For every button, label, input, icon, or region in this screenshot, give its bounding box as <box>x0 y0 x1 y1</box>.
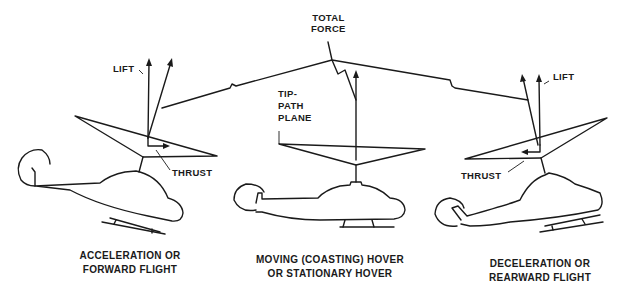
helicopter-forces-diagram: TOTAL FORCE TIP- PATH PLANE LIFT THRUST … <box>0 0 617 293</box>
caption-deceleration-line-1: DECELERATION OR <box>475 257 605 271</box>
lift-label-right: LIFT <box>553 71 574 82</box>
tip-path-line-3: PLANE <box>278 112 312 124</box>
caption-hover: MOVING (COASTING) HOVER OR STATIONARY HO… <box>240 253 420 281</box>
caption-acceleration-line-1: ACCELERATION OR <box>70 249 190 263</box>
caption-deceleration-line-2: REARWARD FLIGHT <box>475 271 605 285</box>
total-force-connector <box>162 42 528 108</box>
lift-label-left: LIFT <box>113 63 134 74</box>
caption-deceleration: DECELERATION OR REARWARD FLIGHT <box>475 257 605 285</box>
panel-deceleration <box>435 74 607 232</box>
caption-hover-line-1: MOVING (COASTING) HOVER <box>240 253 420 267</box>
tip-path-plane-left <box>75 116 217 157</box>
thrust-label-right: THRUST <box>461 170 501 181</box>
panel-acceleration <box>18 58 217 234</box>
panel-hover <box>234 70 425 227</box>
total-force-label: TOTAL FORCE <box>311 12 346 34</box>
helicopter-left <box>32 168 183 221</box>
total-force-line-2: FORCE <box>311 23 346 34</box>
total-force-line-1: TOTAL <box>311 12 346 23</box>
thrust-label-left: THRUST <box>172 167 212 178</box>
caption-acceleration-line-2: FORWARD FLIGHT <box>70 263 190 277</box>
helicopter-middle <box>256 182 405 220</box>
caption-acceleration: ACCELERATION OR FORWARD FLIGHT <box>70 249 190 277</box>
tip-path-plane-label: TIP- PATH PLANE <box>278 88 312 124</box>
caption-hover-line-2: OR STATIONARY HOVER <box>240 267 420 281</box>
tip-path-plane-middle <box>279 144 425 165</box>
tip-path-line-1: TIP- <box>278 88 312 100</box>
tip-path-line-2: PATH <box>278 100 312 112</box>
